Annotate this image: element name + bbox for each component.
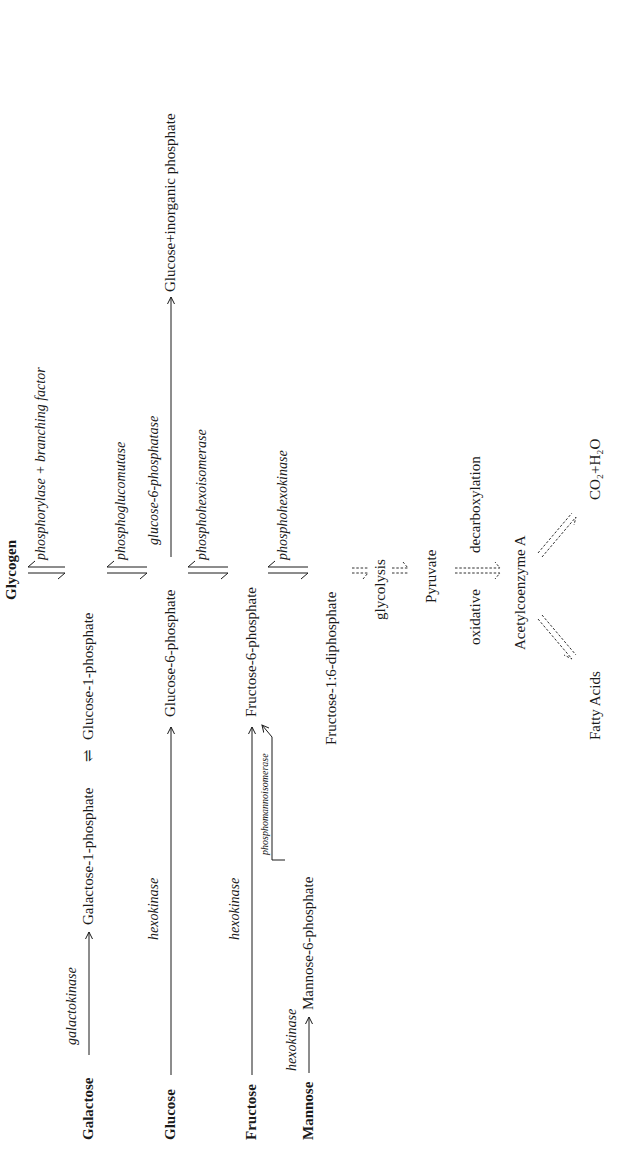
fructose-1-6-diphosphate-label: Fructose-1:6-diphosphate: [323, 591, 339, 745]
hexokinase-mannose-enzyme: hexokinase: [284, 1009, 299, 1071]
phosphorylase-enzyme: phosphorylase + branching factor: [33, 367, 48, 561]
glucose-6-phosphate-label: Glucose-6-phosphate: [162, 589, 178, 717]
galactose-1-phosphate-label: Galactose-1-phosphate: [80, 787, 96, 925]
pyruvate-label: Pyruvate: [423, 549, 439, 603]
glycogen-equilibrium-arrow: [28, 561, 65, 579]
fatty-acids-label: Fatty Acids: [587, 671, 603, 740]
mannose-label: Mannose: [300, 1081, 316, 1140]
phosphohexoisomerase-enzyme: phosphohexoisomerase: [194, 429, 209, 561]
mannose-6-phosphate-label: Mannose-6-phosphate: [300, 876, 316, 1010]
phosphohexokinase-enzyme: phosphohexokinase: [275, 450, 290, 561]
fructose-6-phosphate-label: Fructose-6-phosphate: [243, 587, 259, 717]
oxidative-label: oxidative: [467, 589, 483, 645]
phosphomannoisomerase-enzyme: phosphomannoisomerase: [259, 753, 270, 856]
decarboxylation-label: decarboxylation: [467, 456, 483, 553]
f6p-fdp-equilibrium-arrow: [268, 561, 308, 579]
glycogen-label: Glycogen: [3, 539, 19, 600]
acetylcoenzyme-a-label: Acetylcoenzyme A: [512, 535, 528, 650]
acetyl-coa-co2-dashed-arrow: [538, 513, 576, 557]
phosphomannoisomerase-arrow: [262, 725, 272, 737]
rotated-frame: Galactose galactokinase Galactose-1-phos…: [3, 113, 603, 1140]
hexokinase-glucose-enzyme: hexokinase: [146, 878, 161, 940]
phosphomannoisomerase-bracket: [272, 737, 285, 860]
fructose-label: Fructose: [243, 1084, 259, 1140]
glucose-label: Glucose: [162, 1089, 178, 1140]
oxidative-decarboxylation-dashed-arrow: [455, 562, 500, 579]
phosphoglucomutase-enzyme: phosphoglucomutase: [113, 442, 128, 561]
co2-h2o-label: CO₂+H₂O: [587, 438, 603, 500]
g1p-g6p-equilibrium-arrow: [107, 561, 147, 579]
galactokinase-enzyme: galactokinase: [64, 967, 79, 1045]
g6p-f6p-equilibrium-arrow: [188, 561, 228, 579]
glucose-inorganic-phosphate-label: Glucose+inorganic phosphate: [162, 113, 178, 292]
metabolic-pathway-diagram: Galactose galactokinase Galactose-1-phos…: [0, 0, 630, 1165]
galactose-label: Galactose: [80, 1077, 96, 1140]
hexokinase-fructose-enzyme: hexokinase: [227, 878, 242, 940]
glycolysis-label: glycolysis: [372, 559, 388, 620]
acetyl-coa-fatty-acids-dashed-arrow: [538, 615, 576, 659]
equilibrium-icon: ⇌: [80, 749, 96, 762]
glucose-6-phosphatase-enzyme: glucose-6-phosphatase: [146, 416, 161, 545]
glucose-1-phosphate-label: Glucose-1-phosphate: [80, 612, 96, 740]
